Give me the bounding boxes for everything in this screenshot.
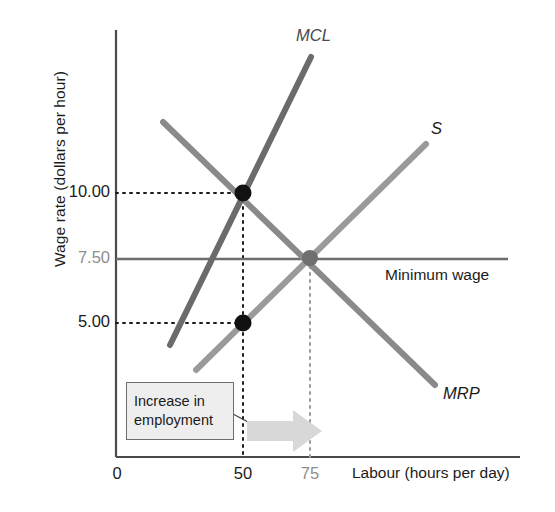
x-tick-label-75: 75 [287,464,333,483]
y-tick-label-5: 5.00 [40,312,110,331]
mrp-curve [163,122,435,385]
x-axis-title: Labour (hours per day) [352,464,510,482]
figure-canvas: Wage rate (dollars per hour) Labour (hou… [0,0,555,512]
y-tick-label-7-50: 7.50 [40,248,110,267]
minimum-wage-label: Minimum wage [385,266,489,284]
monopsony-wage-dot [235,315,252,332]
x-tick-label-50: 50 [220,464,266,483]
supply-curve-label: S [431,119,442,138]
mcl-mrp-intersection-dot [235,185,252,202]
y-tick-label-10: 10.00 [40,182,110,201]
increase-in-employment-callout: Increase in employment [126,382,234,440]
x-tick-label-0: 0 [94,464,140,483]
callout-line-1: Increase in [134,392,205,411]
mrp-curve-label: MRP [443,384,480,403]
callout-line-2: employment [134,411,213,430]
increase-in-employment-arrow [247,410,322,452]
minimum-wage-equilibrium-node [302,250,318,266]
mcl-curve-label: MCL [296,26,331,45]
